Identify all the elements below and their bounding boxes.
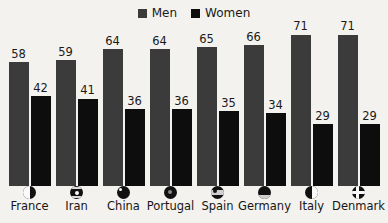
grouped-bar-chart: Men Women 584259416436643665356634712971… — [0, 0, 388, 223]
bar-value-label: 64 — [105, 36, 120, 48]
bar-women-portugal[interactable]: 36 — [172, 109, 192, 186]
chart-legend: Men Women — [0, 7, 388, 19]
axis-tick-label: Iran — [65, 201, 87, 213]
axis-tick-france[interactable]: France — [6, 186, 53, 213]
bar-women-france[interactable]: 42 — [31, 96, 51, 186]
axis-tick-spain[interactable]: Spain — [194, 186, 241, 213]
axis-tick-label: Portugal — [147, 201, 195, 213]
axis-tick-label: Italy — [299, 201, 324, 213]
flag-italy-icon — [305, 186, 318, 199]
bar-men-france[interactable]: 58 — [9, 62, 29, 186]
legend-label-men: Men — [152, 7, 177, 19]
bar-women-germany[interactable]: 34 — [266, 113, 286, 186]
flag-iran-icon — [70, 186, 83, 199]
axis-tick-germany[interactable]: Germany — [241, 186, 288, 213]
bar-group: 5842 — [6, 26, 53, 186]
bar-women-italy[interactable]: 29 — [313, 124, 333, 186]
legend-item-women[interactable]: Women — [191, 7, 250, 19]
bar-value-label: 58 — [11, 49, 26, 61]
bar-men-spain[interactable]: 65 — [197, 47, 217, 186]
flag-spain-icon — [211, 186, 224, 199]
axis-tick-china[interactable]: China — [100, 186, 147, 213]
flag-france-icon — [23, 186, 36, 199]
legend-label-women: Women — [205, 7, 250, 19]
flag-denmark-icon — [352, 186, 365, 199]
bar-value-label: 64 — [152, 36, 167, 48]
bar-value-label: 65 — [199, 34, 214, 46]
bar-group: 7129 — [335, 26, 382, 186]
flag-portugal-icon — [164, 186, 177, 199]
bar-men-germany[interactable]: 66 — [244, 45, 264, 186]
bar-value-label: 36 — [174, 96, 189, 108]
bar-group: 6634 — [241, 26, 288, 186]
bar-men-china[interactable]: 64 — [103, 49, 123, 186]
bar-women-china[interactable]: 36 — [125, 109, 145, 186]
square-swatch-icon — [191, 9, 200, 18]
bar-men-portugal[interactable]: 64 — [150, 49, 170, 186]
bar-group: 6436 — [147, 26, 194, 186]
axis-tick-label: China — [107, 201, 140, 213]
bar-value-label: 42 — [33, 83, 48, 95]
plot-area: 58425941643664366535663471297129 — [0, 26, 388, 186]
bar-value-label: 66 — [246, 32, 261, 44]
flag-china-icon — [117, 186, 130, 199]
axis-tick-denmark[interactable]: Denmark — [335, 186, 382, 213]
axis-tick-label: Denmark — [332, 201, 385, 213]
axis-tick-label: France — [10, 201, 48, 213]
category-axis: FranceIranChinaPortugalSpainGermanyItaly… — [0, 186, 388, 223]
bar-group: 5941 — [53, 26, 100, 186]
bar-group: 6436 — [100, 26, 147, 186]
bar-men-iran[interactable]: 59 — [56, 60, 76, 186]
bar-women-iran[interactable]: 41 — [78, 99, 98, 186]
flag-germany-icon — [258, 186, 271, 199]
bar-value-label: 71 — [340, 21, 355, 33]
bar-women-denmark[interactable]: 29 — [360, 124, 380, 186]
bar-value-label: 34 — [268, 100, 283, 112]
bar-value-label: 29 — [362, 111, 377, 123]
bar-women-spain[interactable]: 35 — [219, 111, 239, 186]
bar-value-label: 59 — [58, 47, 73, 59]
bar-value-label: 35 — [221, 98, 236, 110]
bar-men-denmark[interactable]: 71 — [338, 35, 358, 186]
bar-men-italy[interactable]: 71 — [291, 35, 311, 186]
square-swatch-icon — [138, 9, 147, 18]
axis-tick-iran[interactable]: Iran — [53, 186, 100, 213]
bar-value-label: 41 — [80, 85, 95, 97]
axis-tick-italy[interactable]: Italy — [288, 186, 335, 213]
bar-value-label: 71 — [293, 21, 308, 33]
legend-item-men[interactable]: Men — [138, 7, 177, 19]
axis-tick-portugal[interactable]: Portugal — [147, 186, 194, 213]
bar-value-label: 36 — [127, 96, 142, 108]
bar-value-label: 29 — [315, 111, 330, 123]
axis-tick-label: Germany — [238, 201, 291, 213]
bar-group: 7129 — [288, 26, 335, 186]
axis-tick-label: Spain — [201, 201, 233, 213]
bar-group: 6535 — [194, 26, 241, 186]
